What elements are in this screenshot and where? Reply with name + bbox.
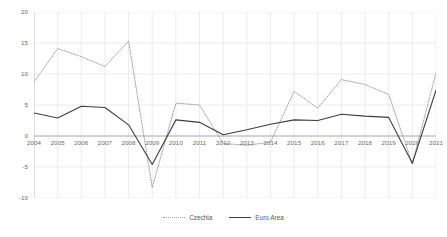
legend-swatch-icon [229, 217, 251, 218]
x-axis-tick-label: 2017 [328, 140, 354, 146]
chart-legend: CzechiaEuro Area [0, 214, 447, 221]
x-axis-tick-label: 2018 [352, 140, 378, 146]
x-axis-tick-label: 2015 [281, 140, 307, 146]
x-axis-tick-label: 2005 [45, 140, 71, 146]
y-axis-tick-label: 5 [2, 102, 28, 108]
x-axis-tick-label: 2008 [116, 140, 142, 146]
plot-svg [34, 12, 436, 198]
x-axis-tick-label: 2019 [376, 140, 402, 146]
plot-area [34, 12, 436, 198]
legend-label: Czechia [189, 214, 212, 221]
gridlines [34, 12, 436, 198]
legend-item-czechia[interactable]: Czechia [163, 214, 212, 221]
x-axis-tick-label: 2016 [305, 140, 331, 146]
x-axis-tick-label: 2011 [187, 140, 213, 146]
x-axis-tick-label: 2007 [92, 140, 118, 146]
x-axis-tick-label: 2020 [399, 140, 425, 146]
x-axis-tick-label: 2013 [234, 140, 260, 146]
x-axis-tick-label: 2014 [257, 140, 283, 146]
y-axis-tick-label: 15 [2, 40, 28, 46]
y-axis-tick-label: 10 [2, 71, 28, 77]
legend-swatch-icon [163, 217, 185, 218]
x-axis-tick-label: 2010 [163, 140, 189, 146]
series-line-czechia [34, 41, 436, 187]
y-axis-tick-label: -10 [2, 195, 28, 201]
legend-item-euro-area[interactable]: Euro Area [229, 214, 283, 221]
data-series [34, 41, 436, 187]
x-axis-tick-label: 2021 [423, 140, 447, 146]
x-axis-tick-label: 2006 [68, 140, 94, 146]
y-axis-tick-label: -5 [2, 164, 28, 170]
line-chart: 20151050-5-10 20042005200620072008200920… [0, 0, 447, 237]
y-axis-tick-label: 20 [2, 9, 28, 15]
legend-label: Euro Area [255, 214, 283, 221]
x-axis-tick-label: 2012 [210, 140, 236, 146]
y-axis-tick-label: 0 [2, 133, 28, 139]
x-axis-tick-label: 2009 [139, 140, 165, 146]
x-axis-tick-label: 2004 [21, 140, 47, 146]
series-line-euro-area [34, 90, 436, 164]
